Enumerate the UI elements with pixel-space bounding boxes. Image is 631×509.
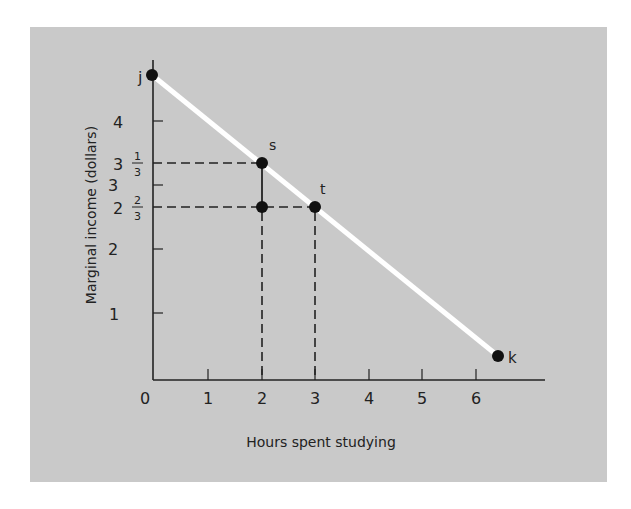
y-axis-title: Marginal income (dollars)	[83, 126, 99, 304]
label-k: k	[508, 349, 517, 367]
x-tick-1: 1	[203, 389, 213, 408]
point-j	[146, 69, 158, 81]
y-tick-2-2-3-num: 2	[134, 194, 141, 207]
x-tick-2: 2	[257, 389, 267, 408]
y-tick-2-2-3-whole: 2	[113, 199, 123, 218]
x-axis-title: Hours spent studying	[246, 434, 396, 450]
label-t: t	[320, 181, 326, 197]
y-tick-3-1-3-num: 1	[134, 150, 141, 163]
point-s	[256, 157, 268, 169]
dashed-guides	[153, 163, 315, 380]
x-ticks	[208, 369, 476, 380]
y-tick-4: 4	[113, 113, 123, 132]
y-tick-3-1-3-whole: 3	[113, 155, 123, 174]
y-tick-3: 3	[108, 176, 118, 195]
label-j: j	[137, 68, 142, 87]
x-tick-6: 6	[471, 389, 481, 408]
x-tick-5: 5	[417, 389, 427, 408]
y-tick-2-2-3-den: 3	[134, 210, 141, 223]
point-t	[309, 201, 321, 213]
x-tick-0: 0	[140, 389, 150, 408]
y-tick-1: 1	[109, 305, 119, 324]
y-tick-2: 2	[108, 240, 118, 259]
y-tick-3-1-3-den: 3	[134, 166, 141, 179]
y-ticks	[153, 121, 163, 313]
x-tick-3: 3	[310, 389, 320, 408]
label-s: s	[269, 137, 276, 153]
chart: j s t k 4 3 1 3 3 2 2 3 2 1 0 1 2 3 4 5 …	[0, 0, 631, 509]
x-tick-4: 4	[364, 389, 374, 408]
point-k	[492, 350, 504, 362]
marginal-income-line	[152, 75, 498, 356]
point-s-projection	[256, 201, 268, 213]
